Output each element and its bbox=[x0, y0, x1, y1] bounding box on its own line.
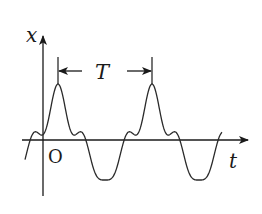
period-marker: T bbox=[58, 57, 152, 84]
t-axis-label: t bbox=[229, 149, 238, 173]
period-label: T bbox=[95, 60, 111, 84]
x-axis-label: x bbox=[26, 23, 37, 47]
origin-label: O bbox=[48, 146, 63, 167]
waveform-diagram: x t O T bbox=[0, 0, 262, 214]
